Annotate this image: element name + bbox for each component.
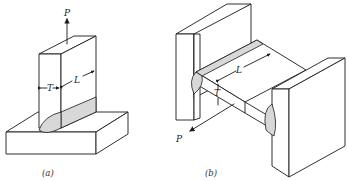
force-label-b: P — [175, 134, 183, 144]
length-label-b: L — [235, 65, 242, 75]
force-label-a: P — [63, 8, 71, 18]
panel-a: P T L (a) — [6, 8, 128, 178]
thickness-label-a: T — [47, 83, 54, 93]
length-label-a: L — [73, 75, 80, 85]
panel-b: P L T (b) — [175, 4, 345, 178]
weld-diagram: P T L (a) — [0, 0, 348, 181]
thickness-label-b: T — [214, 88, 221, 98]
caption-b: (b) — [205, 168, 217, 178]
caption-a: (a) — [42, 168, 54, 178]
